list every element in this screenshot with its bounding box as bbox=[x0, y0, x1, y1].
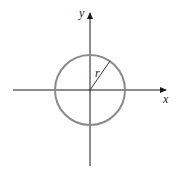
circle-diagram: r y x bbox=[0, 0, 179, 176]
x-axis-label: x bbox=[162, 92, 169, 106]
radius-label: r bbox=[95, 66, 100, 80]
y-axis-label: y bbox=[78, 6, 85, 20]
radius-line bbox=[90, 61, 110, 90]
